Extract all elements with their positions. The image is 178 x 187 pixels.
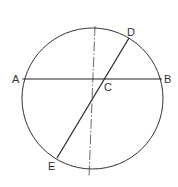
label-d: D xyxy=(127,26,135,38)
label-a: A xyxy=(12,73,20,85)
center-line xyxy=(89,26,95,177)
label-c: C xyxy=(104,81,112,93)
label-b: B xyxy=(164,73,171,85)
chord-de xyxy=(57,38,129,158)
geometry-diagram: A B C D E xyxy=(0,0,178,187)
label-e: E xyxy=(48,160,55,172)
